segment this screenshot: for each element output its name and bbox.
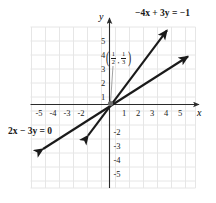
coordinate-comma: ,	[118, 57, 120, 66]
x-tick: 5	[178, 108, 182, 118]
y-tick: 1	[101, 92, 105, 102]
equation-label-line1: −4x + 3y = −1	[135, 8, 190, 18]
coordinate-plane-chart: y x -5 -4 -3 -2 1 2 3 4 5 5 4 3 2 1 -2 -…	[0, 0, 216, 203]
x-tick: 2	[136, 108, 140, 118]
y-axis-name: y	[98, 11, 104, 22]
intersection-point-label: ( 1 2 , 1 3 )	[105, 50, 132, 66]
graph-figure: y x -5 -4 -3 -2 1 2 3 4 5 5 4 3 2 1 -2 -…	[0, 0, 216, 203]
y-tick: -5	[113, 169, 120, 179]
x-tick: 1	[122, 108, 126, 118]
y-tick: -3	[113, 141, 120, 151]
x-tick: -3	[63, 108, 70, 118]
left-paren: (	[106, 50, 109, 66]
x-tick: 4	[164, 108, 169, 118]
right-paren: )	[128, 50, 131, 66]
y-tick: 2	[101, 78, 105, 88]
x-tick: -5	[35, 108, 42, 118]
y-tick: -2	[113, 127, 120, 137]
x-tick: -4	[49, 108, 57, 118]
y-tick: -4	[113, 155, 121, 165]
x-tick: 3	[150, 108, 154, 118]
intersection-point	[108, 101, 113, 106]
equation-label-line2: 2x − 3y = 0	[8, 126, 52, 136]
x-tick: -2	[77, 108, 84, 118]
y-tick: 5	[101, 36, 105, 46]
x-axis-name: x	[196, 107, 202, 118]
fraction-y: 1 3	[121, 51, 126, 66]
fraction-x: 1 2	[111, 51, 116, 66]
